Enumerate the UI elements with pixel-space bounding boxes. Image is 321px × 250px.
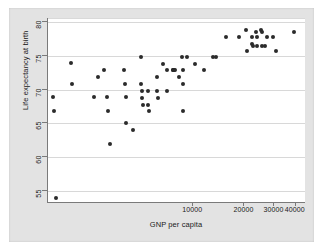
y-tick-label: 80 (35, 21, 42, 29)
data-point (177, 75, 181, 79)
data-point (51, 95, 55, 99)
y-tick-mark (42, 122, 47, 123)
x-tick-label: 40000 (285, 206, 305, 213)
data-point (292, 30, 296, 34)
gridline-y (48, 22, 305, 23)
y-tick-mark (42, 89, 47, 90)
x-axis-title: GNP per capita (47, 220, 305, 229)
y-tick-mark (42, 55, 47, 56)
data-point (106, 109, 110, 113)
data-point (52, 109, 56, 113)
data-point (102, 68, 106, 72)
data-point (161, 62, 165, 66)
data-point (180, 55, 184, 59)
y-axis-title: Life expectancy at birth (21, 30, 30, 110)
data-point (255, 35, 259, 39)
data-point (181, 82, 185, 86)
data-point (165, 89, 169, 93)
gridline-y (48, 90, 305, 91)
data-point (155, 89, 159, 93)
data-point (139, 55, 143, 59)
data-point (265, 35, 269, 39)
data-point (202, 68, 206, 72)
data-point (124, 121, 128, 125)
data-point (274, 49, 278, 53)
data-point (140, 96, 144, 100)
data-point (146, 103, 150, 107)
data-point (156, 96, 160, 100)
data-point (181, 109, 185, 113)
y-tick-label: 60 (35, 156, 42, 164)
data-point (54, 196, 58, 200)
data-point (140, 89, 144, 93)
data-point (92, 95, 96, 99)
data-point (250, 35, 254, 39)
data-point (124, 95, 128, 99)
data-point (260, 30, 264, 34)
data-point (147, 109, 151, 113)
y-tick-label: 55 (35, 189, 42, 197)
gridline-y (48, 191, 305, 192)
y-tick-label: 75 (35, 55, 42, 63)
data-point (122, 68, 126, 72)
gridline-y (48, 123, 305, 124)
data-point (244, 28, 248, 32)
x-tick-label: 30000 (263, 206, 283, 213)
data-point (254, 30, 258, 34)
x-tick-label: 20000 (233, 206, 253, 213)
data-point (105, 95, 109, 99)
data-point (146, 89, 150, 93)
gridline-y (48, 157, 305, 158)
data-point (108, 142, 112, 146)
data-point (139, 82, 143, 86)
data-point (141, 103, 145, 107)
data-point (173, 68, 177, 72)
data-point (237, 35, 241, 39)
y-tick-mark (42, 190, 47, 191)
y-tick-label: 65 (35, 122, 42, 130)
x-tick-label: 10000 (182, 206, 202, 213)
data-point (181, 68, 185, 72)
y-tick-label: 70 (35, 88, 42, 96)
plot-area (47, 18, 305, 202)
data-point (245, 49, 249, 53)
data-point (185, 55, 189, 59)
x-axis-line (47, 202, 305, 203)
data-point (155, 75, 159, 79)
data-point (131, 128, 135, 132)
gridline-y (48, 56, 305, 57)
y-tick-mark (42, 156, 47, 157)
data-point (224, 35, 228, 39)
y-axis-line (47, 18, 48, 202)
data-point (96, 75, 100, 79)
data-point (69, 61, 73, 65)
data-point (193, 62, 197, 66)
data-point (255, 44, 259, 48)
data-point (165, 68, 169, 72)
data-point (271, 35, 275, 39)
scatter-plot-figure: Life expectancy at birth GNP per capita … (0, 0, 321, 250)
data-point (123, 82, 127, 86)
y-tick-mark (42, 21, 47, 22)
data-point (263, 44, 267, 48)
data-point (214, 55, 218, 59)
data-point (70, 82, 74, 86)
